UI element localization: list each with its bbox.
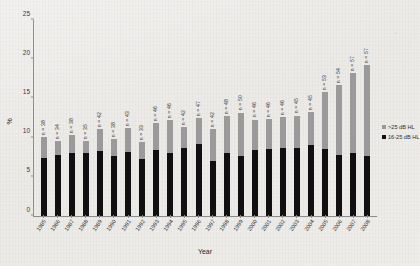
x-axis-tick-label: 1995 xyxy=(177,219,189,232)
stacked-bar[interactable]: n = 46 xyxy=(252,120,258,216)
bar-n-label: n = 42 xyxy=(182,110,187,125)
stacked-bar[interactable]: n = 38 xyxy=(69,135,75,216)
y-axis-tick-label: 0 xyxy=(26,206,34,213)
bar-n-label: n = 57 xyxy=(350,56,355,71)
stacked-bar[interactable]: n = 38 xyxy=(111,139,117,216)
x-axis-tick-mark xyxy=(226,215,227,218)
bar-segment-16-25db xyxy=(69,153,75,217)
bar-n-label: n = 46 xyxy=(154,106,159,121)
x-axis-slot: 2005 xyxy=(318,218,332,248)
x-axis-tick-label: 2006 xyxy=(332,219,344,232)
chart-legend: >25 dB HL16-25 dB HL xyxy=(382,124,420,144)
bar-slot: n = 46 xyxy=(276,20,290,216)
x-axis-tick-label: 1985 xyxy=(36,219,48,232)
bar-n-label: n = 47 xyxy=(196,101,201,116)
x-axis-tick-mark xyxy=(311,215,312,218)
stacked-bar[interactable]: n = 54 xyxy=(336,85,342,216)
x-axis-tick-mark xyxy=(198,215,199,218)
bar-segment-16-25db xyxy=(280,148,286,216)
bar-segment-above-25db xyxy=(294,116,300,148)
y-axis-title: % xyxy=(6,118,13,124)
stacked-bar[interactable]: n = 47 xyxy=(196,118,202,216)
bar-n-label: n = 53 xyxy=(322,75,327,90)
x-axis-tick-mark xyxy=(113,215,114,218)
stacked-bar[interactable]: n = 46 xyxy=(280,117,286,216)
bar-segment-above-25db xyxy=(41,137,47,158)
stacked-bar[interactable]: n = 46 xyxy=(266,119,272,216)
x-axis-tick-mark xyxy=(156,215,157,218)
stacked-bar[interactable]: n = 48 xyxy=(224,116,230,216)
bar-segment-above-25db xyxy=(196,118,202,144)
legend-swatch-icon xyxy=(382,135,386,139)
x-axis-slot: 1994 xyxy=(163,218,177,248)
bar-n-label: n = 38 xyxy=(70,118,75,133)
bar-segment-16-25db xyxy=(308,145,314,216)
x-axis-slot: 1993 xyxy=(149,218,163,248)
bar-segment-16-25db xyxy=(55,155,61,216)
x-axis-slot: 1989 xyxy=(92,218,106,248)
stacked-bar[interactable]: n = 50 xyxy=(238,113,244,216)
x-axis-slot: 1996 xyxy=(191,218,205,248)
bar-n-label: n = 42 xyxy=(98,112,103,127)
legend-item[interactable]: 16-25 dB HL xyxy=(382,134,420,140)
bar-slot: n = 38 xyxy=(65,20,79,216)
x-axis-tick-label: 2005 xyxy=(317,219,329,232)
bar-slot: n = 46 xyxy=(163,20,177,216)
x-axis-tick-mark xyxy=(254,215,255,218)
bar-segment-above-25db xyxy=(308,112,314,146)
x-axis-slot: 1986 xyxy=(50,218,64,248)
bar-segment-above-25db xyxy=(224,116,230,153)
stacked-bar[interactable]: n = 45 xyxy=(294,116,300,216)
bar-segment-16-25db xyxy=(153,150,159,216)
stacked-bar[interactable]: n = 46 xyxy=(153,123,159,216)
stacked-bar[interactable]: n = 34 xyxy=(55,141,61,216)
x-axis-tick-label: 1989 xyxy=(92,219,104,232)
bar-n-label: n = 34 xyxy=(55,124,60,139)
stacked-bar[interactable]: n = 43 xyxy=(125,128,131,216)
x-axis-tick-mark xyxy=(353,215,354,218)
bar-slot: n = 46 xyxy=(248,20,262,216)
stacked-bar[interactable]: n = 42 xyxy=(210,129,216,216)
x-axis-slot: 2001 xyxy=(261,218,275,248)
y-axis-tick-label: 25 xyxy=(23,10,34,17)
stacked-bar[interactable]: n = 57 xyxy=(364,65,370,216)
x-axis-tick-mark xyxy=(99,215,100,218)
bar-slot: n = 35 xyxy=(79,20,93,216)
bar-slot: n = 50 xyxy=(234,20,248,216)
y-axis-tick-label: 5 xyxy=(26,167,34,174)
bar-n-label: n = 43 xyxy=(126,111,131,126)
legend-item[interactable]: >25 dB HL xyxy=(382,124,420,130)
x-axis-tick-mark xyxy=(282,215,283,218)
bar-slot: n = 42 xyxy=(93,20,107,216)
x-axis-slot: 1999 xyxy=(233,218,247,248)
y-axis-tick-label: 20 xyxy=(23,49,34,56)
bar-segment-16-25db xyxy=(294,148,300,216)
stacked-bar[interactable]: n = 35 xyxy=(83,141,89,216)
stacked-bar[interactable]: n = 38 xyxy=(41,137,47,216)
bar-segment-16-25db xyxy=(210,161,216,216)
stacked-bar[interactable]: n = 53 xyxy=(322,92,328,216)
stacked-bar[interactable]: n = 45 xyxy=(308,112,314,216)
x-axis-slot: 1992 xyxy=(135,218,149,248)
stacked-bar[interactable]: n = 33 xyxy=(139,142,145,216)
bar-slot: n = 53 xyxy=(318,20,332,216)
stacked-bar[interactable]: n = 42 xyxy=(181,127,187,216)
x-axis-slot: 2000 xyxy=(247,218,261,248)
bar-n-label: n = 38 xyxy=(112,122,117,137)
x-axis-title: Year xyxy=(33,248,377,255)
stacked-bar[interactable]: n = 57 xyxy=(350,73,356,216)
x-axis-tick-label: 1993 xyxy=(149,219,161,232)
x-axis-tick-label: 1986 xyxy=(50,219,62,232)
bar-segment-16-25db xyxy=(252,150,258,216)
x-axis-slot: 1988 xyxy=(78,218,92,248)
bar-segment-above-25db xyxy=(69,135,75,152)
bar-slot: n = 57 xyxy=(346,20,360,216)
x-axis-tick-label: 2008 xyxy=(360,219,372,232)
bar-n-label: n = 46 xyxy=(252,102,257,117)
bar-slot: n = 54 xyxy=(332,20,346,216)
legend-label: 16-25 dB HL xyxy=(388,134,419,140)
stacked-bar[interactable]: n = 42 xyxy=(97,129,103,216)
stacked-bar[interactable]: n = 46 xyxy=(167,120,173,216)
x-axis-tick-label: 2002 xyxy=(275,219,287,232)
bar-segment-16-25db xyxy=(167,153,173,216)
